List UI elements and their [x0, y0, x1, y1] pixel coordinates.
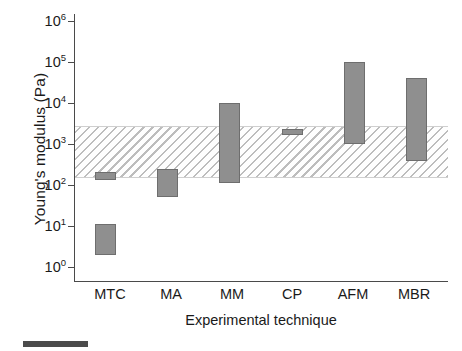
y-tick-mark — [68, 267, 74, 268]
range-bar-mbr — [406, 78, 427, 161]
range-bar-mtc-lower — [95, 224, 116, 254]
y-tick-exponent: 4 — [61, 93, 66, 104]
plot-area — [74, 14, 448, 282]
y-tick-mark — [68, 62, 74, 63]
reference-band — [75, 126, 448, 178]
y-tick-mantissa: 10 — [45, 54, 61, 70]
y-tick-mantissa: 10 — [45, 259, 61, 275]
y-tick-label: 106 — [20, 14, 66, 29]
y-tick-label: 100 — [20, 260, 66, 275]
y-tick-exponent: 5 — [61, 52, 66, 63]
y-tick-label: 101 — [20, 219, 66, 234]
y-tick-label: 105 — [20, 55, 66, 70]
y-tick-exponent: 6 — [61, 11, 66, 22]
range-bar-cp — [282, 129, 303, 134]
y-tick-mantissa: 10 — [45, 95, 61, 111]
y-tick-exponent: 0 — [61, 257, 66, 268]
y-tick-mark — [68, 103, 74, 104]
y-tick-label: 102 — [20, 178, 66, 193]
y-tick-exponent: 3 — [61, 134, 66, 145]
y-tick-exponent: 2 — [61, 175, 66, 186]
y-tick-mark — [68, 226, 74, 227]
y-tick-mantissa: 10 — [45, 13, 61, 29]
y-axis-tick-labels: 106 105 104 103 102 101 100 — [14, 0, 66, 351]
y-tick-exponent: 1 — [61, 216, 66, 227]
range-bar-mtc-upper — [95, 172, 116, 181]
y-tick-mark — [68, 185, 74, 186]
caption-rule — [23, 341, 88, 347]
x-axis-line — [74, 281, 448, 282]
y-tick-label: 104 — [20, 96, 66, 111]
y-tick-mantissa: 10 — [45, 136, 61, 152]
range-bar-ma — [157, 169, 178, 198]
y-tick-mark — [68, 21, 74, 22]
figure: Young's modulus (Pa) 106 105 104 103 102… — [0, 0, 462, 351]
range-bar-afm — [344, 62, 365, 144]
y-tick-label: 103 — [20, 137, 66, 152]
x-tick-label-mbr: MBR — [374, 286, 454, 302]
range-bar-mm — [219, 103, 240, 183]
y-tick-mantissa: 10 — [45, 177, 61, 193]
y-tick-mark — [68, 144, 74, 145]
y-tick-mantissa: 10 — [45, 218, 61, 234]
x-axis-title: Experimental technique — [74, 312, 448, 328]
